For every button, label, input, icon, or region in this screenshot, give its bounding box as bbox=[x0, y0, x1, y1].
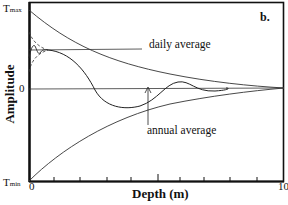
annotation-annual-average: annual average bbox=[147, 124, 216, 136]
y-axis-title: Amplitude bbox=[2, 64, 18, 123]
x-tick-label-10: 10 bbox=[278, 180, 288, 192]
chart-canvas bbox=[0, 0, 288, 205]
y-label-tmin: Tmin bbox=[3, 176, 21, 188]
y-label-tmax: Tmax bbox=[3, 2, 22, 14]
x-tick-label-0: 0 bbox=[29, 180, 35, 192]
annual-wave bbox=[48, 50, 228, 108]
x-axis-title: Depth (m) bbox=[132, 186, 189, 202]
y-label-zero: 0 bbox=[19, 82, 25, 94]
daily-wave bbox=[29, 46, 48, 59]
x-ticks bbox=[54, 174, 257, 181]
annotation-daily-average: daily average bbox=[149, 38, 211, 50]
zero-line bbox=[29, 88, 284, 89]
panel-label: b. bbox=[260, 10, 270, 25]
